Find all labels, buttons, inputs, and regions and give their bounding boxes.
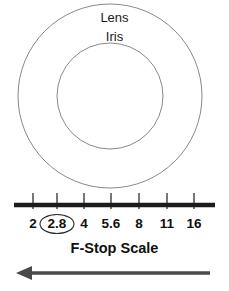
fstop-label-11[interactable]: 11 bbox=[160, 217, 174, 231]
fstop-label-8[interactable]: 8 bbox=[135, 217, 143, 231]
arrow-head-icon bbox=[16, 266, 32, 280]
fstop-label-4[interactable]: 4 bbox=[80, 217, 88, 231]
fstop-label-5-6[interactable]: 5.6 bbox=[102, 217, 121, 231]
aperture-direction-arrow bbox=[16, 266, 210, 280]
f-stop-scale-figure: Lens Iris 22.845.681116 F-Stop Scale bbox=[0, 0, 229, 291]
fstop-label-2-8[interactable]: 2.8 bbox=[48, 217, 67, 231]
fstop-label-16[interactable]: 16 bbox=[186, 217, 201, 231]
fstop-label-2[interactable]: 2 bbox=[29, 217, 37, 231]
scale-caption: F-Stop Scale bbox=[0, 241, 229, 256]
